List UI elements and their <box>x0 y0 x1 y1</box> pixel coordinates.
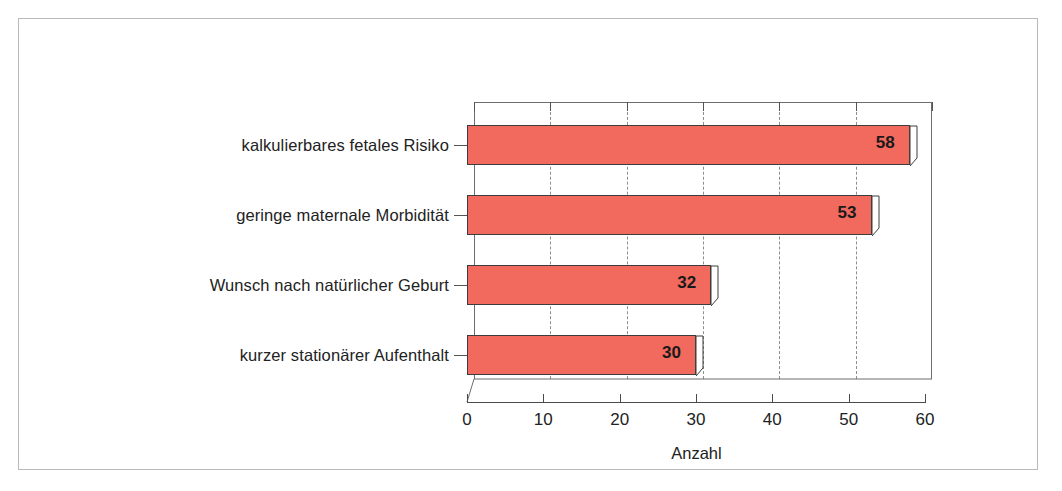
bar-3[interactable]: 30 <box>467 335 703 375</box>
wall-tick-30 <box>703 102 704 111</box>
wall-tick-50 <box>856 102 857 111</box>
bar-side-face-0 <box>910 125 917 165</box>
wall-tick-20 <box>627 102 628 111</box>
x-tick-label-20: 20 <box>610 411 629 428</box>
x-tick-10 <box>543 394 544 403</box>
category-label-3: kurzer stationärer Aufenthalt <box>240 347 449 364</box>
x-tick-label-40: 40 <box>763 411 782 428</box>
wall-tick-0 <box>474 102 475 111</box>
bar-value-label-0: 58 <box>876 134 895 151</box>
bar-face-2 <box>467 265 711 305</box>
wall-tick-60 <box>932 102 933 111</box>
x-tick-label-10: 10 <box>534 411 553 428</box>
category-tick-1 <box>454 215 467 216</box>
bar-chart-plot: kalkulierbares fetales Risiko geringe ma… <box>19 19 1062 491</box>
x-tick-40 <box>772 394 773 403</box>
bar-value-label-2: 32 <box>677 274 696 291</box>
bar-side-face-2 <box>711 265 718 305</box>
bar-value-label-1: 53 <box>838 204 857 221</box>
bar-side-face-1 <box>872 195 879 235</box>
category-label-0: kalkulierbares fetales Risiko <box>242 137 449 154</box>
bar-value-label-3: 30 <box>662 344 681 361</box>
figure-frame: kalkulierbares fetales Risiko geringe ma… <box>18 18 1038 470</box>
x-axis-title: Anzahl <box>467 444 926 463</box>
x-tick-0 <box>467 394 468 403</box>
x-tick-50 <box>849 394 850 403</box>
category-tick-0 <box>454 145 467 146</box>
x-tick-30 <box>696 394 697 403</box>
bar-face-0 <box>467 125 910 165</box>
bar-1[interactable]: 53 <box>467 195 879 235</box>
x-tick-label-30: 30 <box>687 411 706 428</box>
category-label-1: geringe maternale Morbidität <box>236 207 449 224</box>
bar-2[interactable]: 32 <box>467 265 718 305</box>
wall-tick-40 <box>779 102 780 111</box>
x-tick-60 <box>925 394 926 403</box>
wall-tick-10 <box>550 102 551 111</box>
bar-0[interactable]: 58 <box>467 125 917 165</box>
x-tick-label-0: 0 <box>462 411 471 428</box>
category-label-2: Wunsch nach natürlicher Geburt <box>210 277 449 294</box>
bar-side-face-3 <box>696 335 703 375</box>
x-tick-20 <box>620 394 621 403</box>
figure-canvas: kalkulierbares fetales Risiko geringe ma… <box>0 0 1062 491</box>
category-tick-2 <box>454 285 467 286</box>
x-tick-label-50: 50 <box>839 411 858 428</box>
bar-face-1 <box>467 195 872 235</box>
category-tick-3 <box>454 355 467 356</box>
x-tick-label-60: 60 <box>916 411 935 428</box>
